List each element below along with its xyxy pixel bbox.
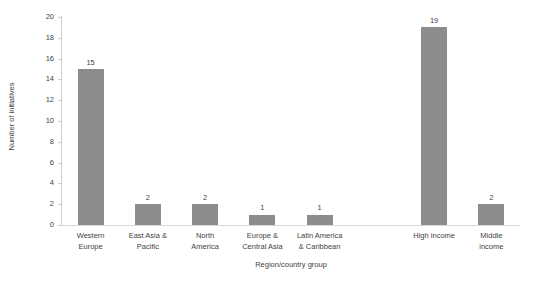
x-axis-tick-label-line1: Middle [480, 231, 502, 240]
bar-value-label: 2 [146, 194, 150, 202]
x-axis-tick-label-line2: income [463, 242, 520, 253]
x-axis-tick-label-line1: High income [413, 231, 455, 240]
x-axis-baseline [61, 225, 520, 226]
bar-value-label: 15 [86, 59, 94, 67]
bar-series: 152211192 [62, 17, 520, 225]
x-axis-tick-label-line2: & Caribbean [291, 242, 348, 253]
x-axis-tick-label: Middleincome [463, 231, 520, 252]
x-axis-tick-label: NorthAmerica [177, 231, 234, 252]
x-axis-title: Region/country group [62, 260, 520, 269]
y-axis-title: Number of initiatives [4, 0, 20, 232]
bar-slot: 15 [62, 17, 119, 225]
bar[interactable] [307, 215, 333, 225]
x-axis-tick-label-line1: Latin America [297, 231, 342, 240]
x-axis-tick-label-line1: North [196, 231, 214, 240]
x-axis-tick-label [348, 231, 405, 252]
bar[interactable] [249, 215, 275, 225]
bar-slot [348, 17, 405, 225]
bar-value-label: 2 [203, 194, 207, 202]
y-axis-title-text: Number of initiatives [8, 82, 17, 150]
x-axis-tick-label-line2: Europe [62, 242, 119, 253]
bar[interactable] [78, 69, 104, 225]
x-axis-tick-label-line2: Central Asia [234, 242, 291, 253]
bar[interactable] [421, 27, 447, 225]
plot-area: 20181614121086420 152211192 [62, 17, 520, 225]
bar-slot: 1 [234, 17, 291, 225]
bar-slot: 2 [463, 17, 520, 225]
y-axis-tick-label: 12 [46, 96, 54, 104]
bar[interactable] [135, 204, 161, 225]
y-axis-tick-label: 16 [46, 55, 54, 63]
bar-slot: 2 [177, 17, 234, 225]
bar-value-label: 2 [489, 194, 493, 202]
x-axis-tick-label: WesternEurope [62, 231, 119, 252]
x-axis-tick-label: Latin America& Caribbean [291, 231, 348, 252]
x-axis-tick-label-line1: East Asia & [129, 231, 167, 240]
x-axis-tick-label: East Asia &Pacific [119, 231, 176, 252]
x-axis-tick-label-line1: Europe & [247, 231, 278, 240]
bar-value-label: 19 [430, 17, 438, 25]
bar-slot: 1 [291, 17, 348, 225]
bar[interactable] [192, 204, 218, 225]
bar-value-label: 1 [318, 204, 322, 212]
y-axis-tick-label: 6 [50, 159, 54, 167]
x-axis-tick-label: Europe &Central Asia [234, 231, 291, 252]
y-axis-tick-label: 10 [46, 117, 54, 125]
x-axis-tick-labels: WesternEuropeEast Asia &PacificNorthAmer… [62, 231, 520, 252]
y-axis-tick-mark [58, 225, 62, 226]
y-axis-tick-label: 2 [50, 200, 54, 208]
x-axis-tick-label-line1: Western [77, 231, 105, 240]
x-axis-tick-label: High income [406, 231, 463, 252]
bar-slot: 19 [406, 17, 463, 225]
y-axis-tick-label: 0 [50, 221, 54, 229]
bar-chart: Number of initiatives 20181614121086420 … [0, 0, 533, 281]
y-axis-tick-label: 20 [46, 13, 54, 21]
bar[interactable] [478, 204, 504, 225]
y-axis-tick-label: 18 [46, 34, 54, 42]
x-axis-tick-label-line2: Pacific [119, 242, 176, 253]
y-axis-tick-label: 14 [46, 76, 54, 84]
y-axis-tick-label: 8 [50, 138, 54, 146]
y-axis-tick-label: 4 [50, 180, 54, 188]
bar-slot: 2 [119, 17, 176, 225]
x-axis-tick-label-line2: America [177, 242, 234, 253]
bar-value-label: 1 [260, 204, 264, 212]
